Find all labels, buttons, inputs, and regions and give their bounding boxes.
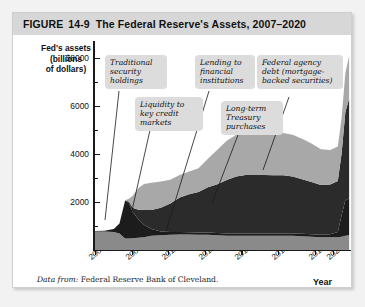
- callout-federal-agency-debt: Federal agency debt (mortgage-backed sec…: [257, 55, 343, 89]
- source-note: Data from: Federal Reserve Bank of Cleve…: [37, 275, 218, 284]
- y-label-2000: 2000: [33, 197, 89, 207]
- y-label-6000: 6000: [33, 101, 89, 111]
- plot-wrap: Fed's assets (billions of dollars) $8000…: [13, 35, 353, 289]
- figure-header: FIGURE 14-9 The Federal Reserve's Assets…: [13, 13, 351, 35]
- y-label-2000-holder: 2000: [31, 197, 89, 207]
- y-label-8000-holder: $8000: [31, 53, 89, 63]
- callout-long-term-treasury-purchases: Long-term Treasury purchases: [221, 101, 283, 135]
- source-text: Federal Reserve Bank of Cleveland.: [81, 275, 219, 284]
- y-label-4000: 4000: [33, 149, 89, 159]
- y-axis-title-line1: Fed's assets: [29, 43, 103, 54]
- y-label-4000-holder: 4000: [31, 149, 89, 159]
- callout-liquidity-to-key-credit-markets: Liquidity to key credit markets: [135, 97, 203, 131]
- y-label-8000: $8000: [33, 53, 89, 63]
- callout-traditional-security-holdings: Traditional security holdings: [105, 55, 167, 89]
- callout-lending-to-financial-institutions: Lending to financial institutions: [195, 55, 255, 89]
- y-label-6000-holder: 6000: [31, 101, 89, 111]
- figure-number: 14-9: [63, 18, 89, 30]
- figure-label: FIGURE: [13, 18, 63, 30]
- y-axis-title-line3: of dollars): [29, 64, 103, 75]
- source-prefix: Data from:: [37, 275, 78, 284]
- x-axis-title: Year: [313, 277, 332, 287]
- figure-card: FIGURE 14-9 The Federal Reserve's Assets…: [12, 12, 352, 288]
- figure-title: The Federal Reserve's Assets, 2007–2020: [90, 18, 306, 30]
